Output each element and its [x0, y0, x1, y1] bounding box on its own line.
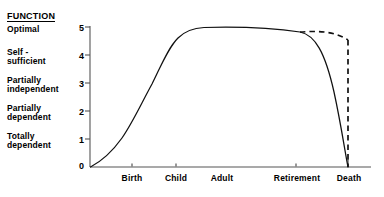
- x-label-birth: Birth: [108, 174, 156, 183]
- compressed-morbidity-plateau: [300, 31, 348, 40]
- x-label-adult: Adult: [196, 174, 248, 183]
- y-axis-ticks: [85, 27, 90, 139]
- x-label-retirement: Retirement: [262, 174, 332, 183]
- chart-plot: [0, 0, 384, 197]
- x-axis-ticks: [132, 159, 348, 167]
- typical-function-curve: [91, 27, 349, 167]
- chart-container: FUNCTION Optimal Self - sufficient Parti…: [0, 0, 384, 197]
- x-label-death: Death: [326, 174, 372, 183]
- x-label-child: Child: [150, 174, 202, 183]
